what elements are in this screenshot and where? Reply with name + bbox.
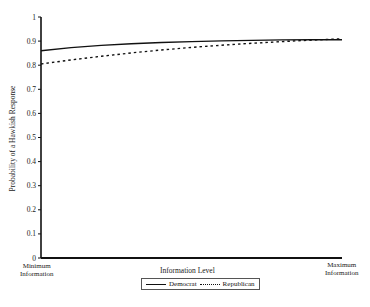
x-max-label-line2: Information [325,269,358,277]
x-min-label-line1: Minimum [20,262,53,270]
x-axis-label: Information Level [160,266,215,275]
x-max-label: Maximum Information [325,261,358,277]
y-tick-label: 0.7 [27,85,37,94]
y-axis-ticks: 00.10.20.30.40.50.60.70.80.91 [27,13,41,263]
legend-republican: Republican [223,280,255,288]
y-tick-label: 1 [32,13,36,22]
x-max-label-line1: Maximum [325,261,358,269]
y-tick-label: 0.9 [27,37,37,46]
line-chart: 00.10.20.30.40.50.60.70.80.91 [0,0,370,307]
y-tick-label: 0.3 [27,181,37,190]
x-min-label-line2: Information [20,270,53,278]
chart-legend: Democrat Republican [141,278,260,290]
democrat-legend-swatch [146,284,166,285]
y-tick-label: 0.8 [27,61,37,70]
y-tick-label: 0.1 [27,229,37,238]
republican-legend-swatch [200,284,220,285]
legend-democrat: Democrat [169,280,197,288]
x-min-label: Minimum Information [20,262,53,278]
y-tick-label: 0.4 [27,157,37,166]
y-tick-label: 0.5 [27,133,37,142]
y-axis-label: Probability of a Hawkish Response [8,69,17,209]
republican-series-line [41,39,342,64]
democrat-series-line [41,40,342,51]
y-tick-label: 0.2 [27,205,37,214]
y-tick-label: 0.6 [27,109,37,118]
